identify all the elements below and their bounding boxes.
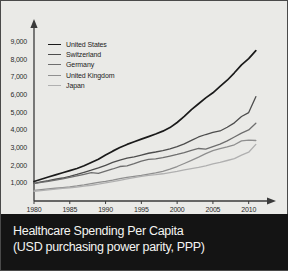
x-axis-tick-label: 1995 [129,206,153,213]
legend-label-germany: Germany [66,61,94,68]
chart-legend: United States Switzerland Germany United… [48,39,114,91]
legend-item-switzerland: Switzerland [48,49,114,59]
line-chart-svg [1,1,288,216]
y-axis-tick-label: 8,000 [3,56,27,63]
legend-swatch-switzerland [48,54,61,55]
y-axis-tick-label: 7,000 [3,73,27,80]
legend-item-germany: Germany [48,60,114,70]
y-axis-tick-label: 2,000 [3,162,27,169]
legend-label-japan: Japan [66,82,85,89]
x-axis-tick-label: 2000 [165,206,189,213]
legend-swatch-united-kingdom [48,75,61,76]
x-axis-tick-label: 1985 [58,206,82,213]
title-banner: Healthcare Spending Per Capita (USD purc… [1,214,288,270]
legend-item-japan: Japan [48,81,114,91]
y-axis-tick-label: 4,000 [3,126,27,133]
y-axis-tick-label: 3,000 [3,144,27,151]
legend-label-united-kingdom: United Kingdom [66,72,114,79]
y-axis-tick-label: 9,000 [3,38,27,45]
y-axis-tick-label: 5,000 [3,109,27,116]
legend-swatch-united-states [48,44,61,45]
legend-item-united-kingdom: United Kingdom [48,70,114,80]
legend-item-united-states: United States [48,39,114,49]
x-axis-tick-label: 1980 [22,206,46,213]
x-axis-tick-label: 2010 [237,206,261,213]
chart-plot-area: 1,0002,0003,0004,0005,0006,0007,0008,000… [1,1,288,216]
y-axis-tick-label: 1,000 [3,179,27,186]
legend-swatch-japan [48,85,61,86]
legend-label-united-states: United States [66,41,107,48]
y-axis-tick-label: 6,000 [3,91,27,98]
chart-subtitle: (USD purchasing power parity, PPP) [13,239,277,255]
chart-title: Healthcare Spending Per Capita [13,223,277,239]
x-axis-tick-label: 2005 [201,206,225,213]
legend-label-switzerland: Switzerland [66,51,101,58]
x-axis-tick-label: 1990 [94,206,118,213]
chart-figure: 1,0002,0003,0004,0005,0006,0007,0008,000… [0,0,288,271]
legend-swatch-germany [48,64,61,65]
